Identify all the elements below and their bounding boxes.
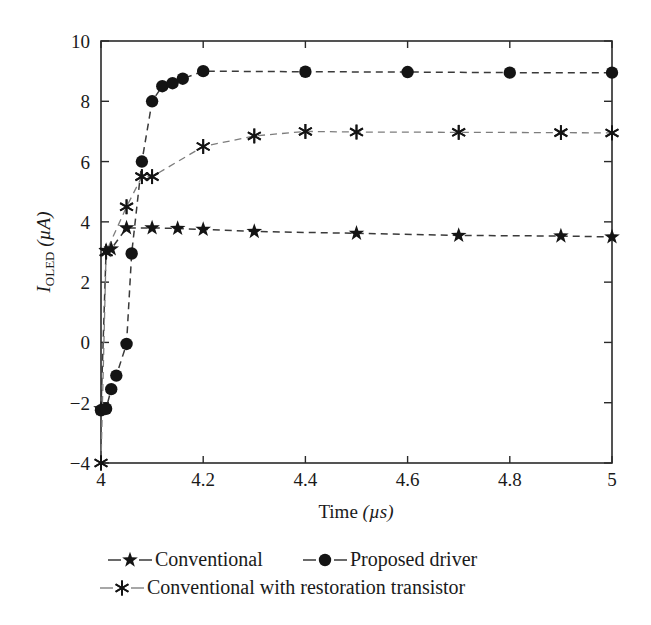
legend-label: Proposed driver <box>350 548 478 571</box>
y-tick-label: 2 <box>81 272 91 293</box>
x-axis-tick-labels: 44.24.44.64.85 <box>96 469 617 490</box>
data-point-circle <box>146 95 158 107</box>
data-point-asterisk <box>350 125 363 140</box>
x-tick-label: 4.6 <box>396 469 420 490</box>
data-point-asterisk <box>120 199 133 214</box>
x-axis-title: Time (µs) <box>318 501 393 523</box>
legend-item-0[interactable]: Conventional <box>108 548 263 570</box>
data-point-circle <box>401 66 413 78</box>
data-point-circle <box>197 65 209 77</box>
series-markers-0 <box>93 220 620 416</box>
data-point-circle <box>105 383 117 395</box>
plot-frame <box>101 41 612 463</box>
data-point-circle <box>100 403 112 415</box>
y-tick-label: −2 <box>70 393 90 414</box>
data-point-circle <box>110 369 122 381</box>
legend-label: Conventional with restoration transistor <box>147 576 466 598</box>
data-point-star <box>247 223 263 238</box>
data-point-star <box>451 227 467 242</box>
data-point-circle <box>136 155 148 167</box>
legend: ConventionalProposed driverConventional … <box>100 548 478 598</box>
svg-text:Time (µs): Time (µs) <box>318 501 393 523</box>
x-tick-label: 5 <box>607 469 617 490</box>
y-tick-label: 8 <box>81 91 91 112</box>
x-tick-label: 4.8 <box>498 469 522 490</box>
data-point-asterisk <box>197 139 210 154</box>
data-point-asterisk <box>554 125 567 140</box>
y-axis-tick-labels: −4−20246810 <box>70 31 91 474</box>
chart-canvas: 44.24.44.64.85 −4−20246810 Time (µs) IOL… <box>0 0 651 625</box>
data-point-star <box>349 225 365 240</box>
data-point-star <box>170 220 186 235</box>
data-point-asterisk <box>135 169 148 184</box>
y-tick-label: 6 <box>81 152 91 173</box>
data-point-circle <box>125 247 137 259</box>
legend-item-2[interactable]: Conventional with restoration transistor <box>100 576 466 598</box>
data-point-asterisk <box>116 581 129 596</box>
x-tick-label: 4 <box>96 469 106 490</box>
data-point-circle <box>299 66 311 78</box>
y-tick-label: 4 <box>81 212 91 233</box>
data-point-circle <box>319 554 331 566</box>
data-point-star <box>144 220 160 235</box>
y-axis-title: IOLED (µA) <box>33 212 57 294</box>
svg-text:IOLED (µA): IOLED (µA) <box>33 212 57 294</box>
legend-label: Conventional <box>155 548 263 570</box>
data-point-star <box>195 221 211 236</box>
x-tick-label: 4.2 <box>191 469 215 490</box>
legend-item-1[interactable]: Proposed driver <box>303 548 478 571</box>
y-tick-label: 10 <box>71 31 90 52</box>
data-point-circle <box>504 66 516 78</box>
series-markers-2 <box>95 124 619 470</box>
series-markers <box>93 65 620 470</box>
series-markers-1 <box>95 65 618 417</box>
y-axis-ticks <box>101 41 612 463</box>
data-point-circle <box>120 338 132 350</box>
data-point-circle <box>177 72 189 84</box>
series-line-1 <box>101 71 612 410</box>
series-line-2 <box>101 131 612 463</box>
series-line-0 <box>101 228 612 409</box>
x-axis-ticks <box>101 41 612 463</box>
data-point-star <box>553 228 569 243</box>
y-tick-label: 0 <box>81 332 91 353</box>
y-tick-label: −4 <box>70 453 91 474</box>
figure-container: 44.24.44.64.85 −4−20246810 Time (µs) IOL… <box>0 0 651 625</box>
data-point-star <box>119 220 135 235</box>
data-point-star <box>122 552 138 567</box>
data-point-circle <box>606 66 618 78</box>
x-tick-label: 4.4 <box>294 469 318 490</box>
